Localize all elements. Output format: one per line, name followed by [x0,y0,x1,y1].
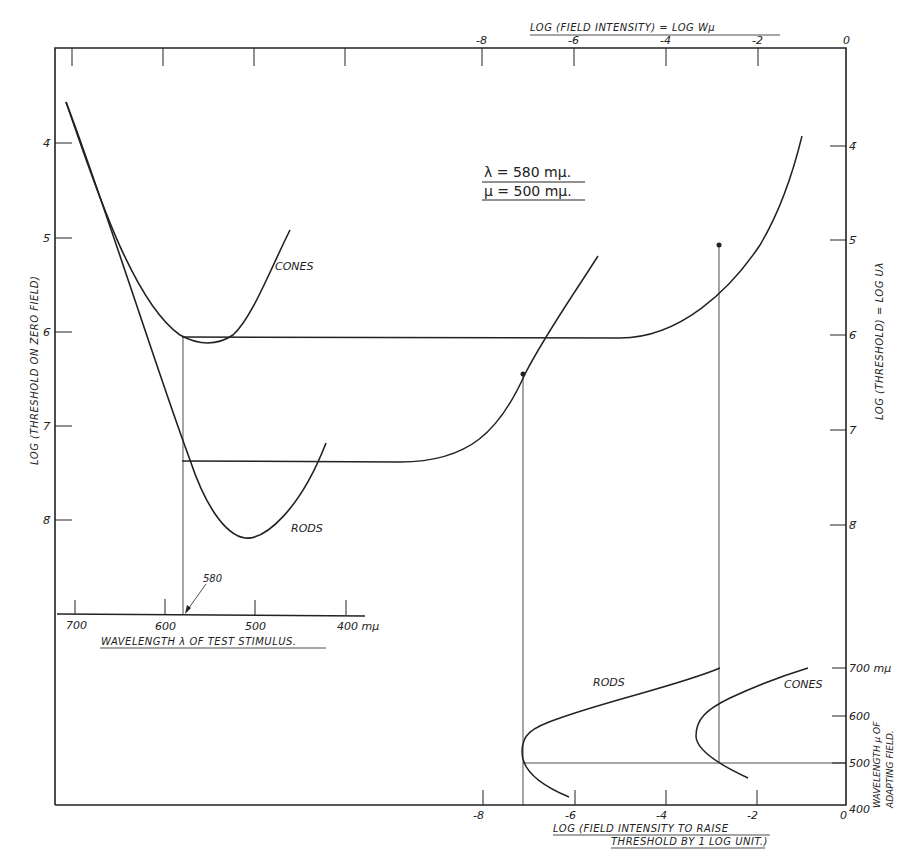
rods-lower-label: RODS [593,676,625,689]
bottom-axis-title-1: LOG (FIELD INTENSITY TO RAISE [553,823,729,834]
plot-frame [55,48,846,805]
top-axis-title: LOG (FIELD INTENSITY) = LOG Wμ [530,22,715,33]
bottom-axis: -8 -6 -4 -2 0 LOG (FIELD INTENSITY TO RA… [473,790,847,848]
right-tick-label: 5̄ [849,234,857,247]
left-tick-label: 5̄ [43,232,51,245]
cones-upper-label: CONES [275,260,314,273]
chart-svg: -8 -6 -4 -2 0 LOG (FIELD INTENSITY) = LO… [0,0,921,868]
right-axis-title: LOG (THRESHOLD) = LOG Uλ [874,262,885,420]
rod-tvi-curve [182,256,598,462]
upper-curves: CONES RODS [66,102,802,805]
adapt-wl-tick-label: 700 mμ [849,662,891,675]
bottom-tick-label: -4 [656,809,667,822]
test-wl-tick-label: 700 [66,619,87,632]
right-tick-label: 4̄ [849,140,857,153]
top-tick-label: -2 [752,34,763,47]
adapt-wl-axis-title-2: ADAPTING FIELD. [885,730,895,809]
top-tick-label: -8 [476,34,487,47]
bottom-tick-label: -2 [747,809,758,822]
annotation: λ = 580 mμ. μ = 500 mμ. [482,164,585,200]
test-wl-axis-title: WAVELENGTH λ OF TEST STIMULUS. [101,636,297,647]
rods-spectral-curve [66,102,326,538]
cones-spectral-curve [66,102,290,343]
adapt-wl-axis-title-1: WAVELENGTH μ OF [872,721,882,808]
right-tick-label: 7̄ [849,424,857,437]
top-tick-label: -4 [660,34,671,47]
lower-curves: RODS CONES [522,668,846,797]
top-axis: -8 -6 -4 -2 0 LOG (FIELD INTENSITY) = LO… [72,22,850,66]
test-wavelength-axis: 580 700 600 500 400 mμ WAVELENGTH λ OF T… [57,573,379,648]
adapt-wl-tick-label: 400 [849,803,870,816]
right-axis: 4̄ 5̄ 6̄ 7̄ 8̄ LOG (THRESHOLD) = LOG Uλ [830,140,885,532]
bottom-tick-label: -6 [565,809,576,822]
top-tick-label: 0 [843,34,850,47]
marker-580-label: 580 [203,573,222,584]
left-tick-label: 6̄ [43,326,51,339]
test-wl-tick-label: 600 [155,620,176,633]
left-tick-label: 8̄ [43,514,51,527]
bottom-tick-label: -8 [473,809,484,822]
bottom-axis-title-2: THRESHOLD BY 1 LOG UNIT.) [611,836,768,847]
cones-lower-label: CONES [784,678,823,691]
left-tick-label: 7̄ [43,420,51,433]
left-axis: 4̄ 5̄ 6̄ 7̄ 8̄ LOG (THRESHOLD ON ZERO FI… [29,137,72,527]
adapting-wavelength-axis: 700 mμ 600 500 400 WAVELENGTH μ OF ADAPT… [832,662,895,816]
adapt-wl-tick-label: 600 [849,710,870,723]
test-wl-tick-label: 500 [245,620,266,633]
left-axis-title: LOG (THRESHOLD ON ZERO FIELD) [29,276,40,465]
test-wl-tick-label: 400 mμ [337,620,379,633]
annotation-lambda: λ = 580 mμ. [484,164,571,180]
top-tick-label: -6 [568,34,579,47]
right-tick-label: 8̄ [849,519,857,532]
left-tick-label: 4̄ [43,137,51,150]
adapt-wl-tick-label: 500 [849,757,870,770]
annotation-mu: μ = 500 mμ. [484,183,572,199]
bottom-tick-label: 0 [840,809,847,822]
right-tick-label: 6̄ [849,329,857,342]
rods-upper-label: RODS [291,522,323,535]
frame-border [55,48,846,805]
